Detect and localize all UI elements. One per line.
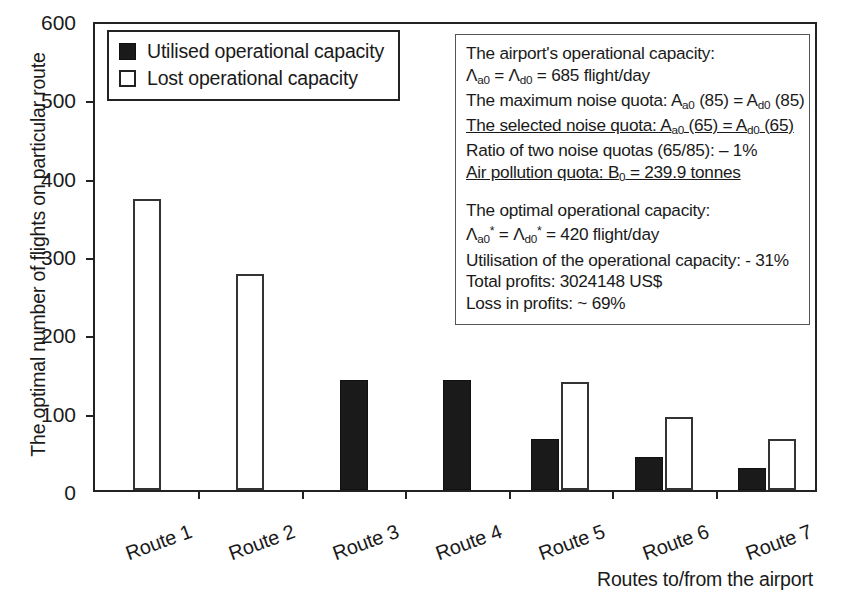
x-axis-tick [716,490,718,499]
bar-utilised-3 [340,380,368,490]
annotation-line-8: The optimal operational capacity: [466,200,800,222]
y-axis-tick-label: 500 [0,90,76,111]
x-axis-tick [405,490,407,499]
annotation-line-11: Total profits: 3024148 US$ [466,271,800,293]
y-axis-tick-label: 0 [0,482,76,503]
y-axis-tick-label: 200 [0,325,76,346]
y-axis-tick-label: 300 [0,247,76,268]
legend-item-2: Lost operational capacity [119,65,384,92]
legend-item-label: Utilised operational capacity [147,40,384,63]
hollow-square-icon [119,70,136,87]
annotation-line-6: Air pollution quota: B0 = 239.9 tonnes [466,162,800,187]
y-axis-tick [86,180,95,182]
bar-utilised-4 [443,380,471,490]
annotation-line-5: Ratio of two noise quotas (65/85): – 1% [466,140,800,162]
y-axis-tick [86,258,95,260]
y-axis-tick [86,415,95,417]
annotation-textbox: The airport's operational capacity:Λa0 =… [455,34,810,325]
y-axis-tick-label: 400 [0,169,76,190]
y-axis-tick [86,336,95,338]
legend-item-label: Lost operational capacity [147,67,358,90]
annotation-line-2: Λa0 = Λd0 = 685 flight/day [466,65,800,90]
annotation-line-9: Λa0* = Λd0* = 420 flight/day [466,221,800,249]
y-axis-tick-label: 600 [0,12,76,33]
chart-figure: The optimal number of flights on particu… [0,0,859,606]
bar-lost-6 [665,417,693,490]
x-axis-tick [612,490,614,499]
annotation-line-4: The selected noise quota: Aa0 (65) = Ad0… [466,115,800,140]
bar-utilised-6 [635,457,663,490]
chart-legend: Utilised operational capacityLost operat… [107,30,400,101]
x-axis-tick [198,490,200,499]
bar-lost-2 [236,274,264,490]
bar-lost-5 [561,382,589,490]
filled-square-icon [119,43,136,60]
x-axis-title: Routes to/from the airport [597,568,813,591]
x-axis-tick [302,490,304,499]
bar-lost-1 [133,199,161,490]
bar-utilised-7 [738,468,766,490]
y-axis-tick [86,101,95,103]
bar-lost-7 [768,439,796,490]
plot-frame: Utilised operational capacityLost operat… [93,22,817,492]
annotation-line-10: Utilisation of the operational capacity:… [466,250,800,272]
legend-item-1: Utilised operational capacity [119,38,384,65]
annotation-line-3: The maximum noise quota: Aa0 (85) = Ad0 … [466,90,800,115]
bar-utilised-5 [531,439,559,490]
x-axis-tick [509,490,511,499]
annotation-line-12: Loss in profits: ~ 69% [466,293,800,315]
annotation-spacer [466,187,800,200]
y-axis-tick-label: 100 [0,404,76,425]
annotation-line-1: The airport's operational capacity: [466,43,800,65]
